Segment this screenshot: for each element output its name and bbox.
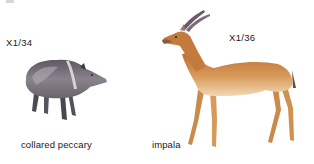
cropped-text-fragment xyxy=(6,0,14,3)
peccary-scale-label: X1/34 xyxy=(6,37,32,48)
impala-name-label: impala xyxy=(152,139,181,150)
collared-peccary-illustration xyxy=(22,55,112,125)
peccary-name-label: collared peccary xyxy=(21,139,92,150)
impala-illustration xyxy=(154,10,304,150)
